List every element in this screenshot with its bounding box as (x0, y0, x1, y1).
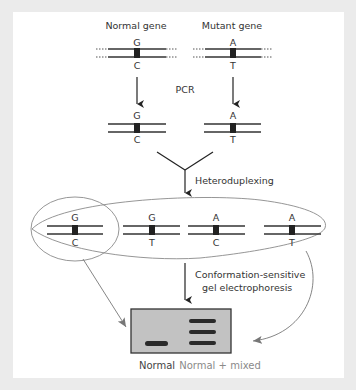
mutation-site-marker (213, 225, 219, 235)
mutation-site-marker (230, 48, 236, 58)
base-label: C (213, 237, 220, 248)
mutation-site-marker (289, 225, 295, 235)
base-label: T (288, 237, 295, 248)
base-label: G (148, 212, 155, 223)
normal-gene-header: Normal gene (105, 20, 166, 31)
mutation-site-marker (134, 123, 140, 133)
base-label: C (72, 237, 79, 248)
gel (131, 309, 231, 353)
lane-label-normal-mixed: Normal + mixed (179, 360, 261, 371)
genomic-normal-duplex: G C (96, 37, 178, 71)
duplex-normal-gc: G C (47, 212, 103, 248)
mutant-gene-header: Mutant gene (202, 20, 262, 31)
base-label: A (213, 212, 220, 223)
gel-slab (131, 309, 231, 353)
duplex-hetero-ac: A C (188, 212, 245, 248)
mutation-site-marker (72, 225, 78, 235)
base-label: T (229, 60, 236, 71)
gel-band-mixed-2 (189, 330, 216, 334)
gel-band-mixed-3 (189, 341, 216, 345)
base-label: G (133, 110, 140, 121)
base-label: A (230, 110, 237, 121)
base-label: T (229, 134, 236, 145)
mutation-site-marker (149, 225, 155, 235)
duplex-mutant-at: A T (264, 212, 321, 248)
merge-connector (157, 152, 213, 193)
duplex-hetero-gt: G T (123, 212, 180, 248)
base-label: T (148, 237, 155, 248)
base-label: G (71, 212, 78, 223)
amplified-mutant-duplex: A T (204, 110, 261, 145)
pcr-label: PCR (176, 84, 195, 95)
mutation-site-marker (230, 123, 236, 133)
electrophoresis-label-line1: Conformation-sensitive (195, 269, 305, 280)
base-label: A (289, 212, 296, 223)
base-label: C (134, 134, 141, 145)
gel-band-mixed-1 (189, 319, 216, 323)
heteroduplex-diagram: Normal gene Mutant gene G C A T PCR G C (0, 0, 356, 390)
base-label: A (230, 37, 237, 48)
lane-label-normal: Normal (139, 360, 175, 371)
amplified-normal-duplex: G C (108, 110, 166, 145)
electrophoresis-label-line2: gel electrophoresis (202, 282, 292, 293)
base-label: G (133, 37, 140, 48)
genomic-mutant-duplex: A T (193, 37, 273, 71)
mixed-to-gel-arrow (253, 251, 313, 341)
mutation-site-marker (134, 48, 140, 58)
base-label: C (134, 60, 141, 71)
heteroduplexing-label: Heteroduplexing (195, 175, 274, 186)
normal-to-gel-arrow (83, 259, 126, 327)
gel-band-normal (145, 341, 168, 346)
